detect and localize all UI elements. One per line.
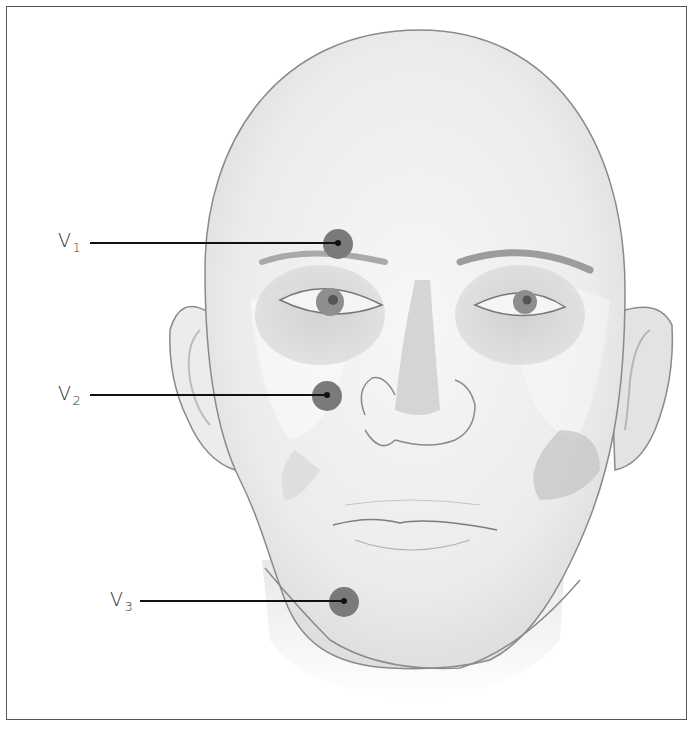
label-v2-sub: 2 [73, 393, 82, 408]
label-v3: V3 [110, 590, 133, 609]
label-v2-base: V [58, 382, 72, 404]
left-orbit [255, 265, 385, 365]
label-v3-base: V [110, 588, 124, 610]
label-v1-base: V [58, 229, 72, 251]
label-v2: V2 [58, 384, 81, 403]
head-illustration [0, 0, 700, 731]
label-v3-sub: 3 [125, 599, 134, 614]
label-v1: V1 [58, 231, 81, 250]
label-v1-sub: 1 [73, 240, 82, 255]
